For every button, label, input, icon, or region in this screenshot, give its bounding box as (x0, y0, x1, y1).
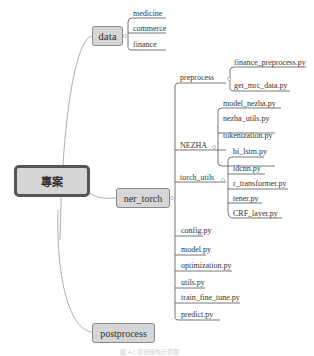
file-model-nezha[interactable]: model_nezha.py (223, 99, 276, 109)
root-label: 專案 (41, 173, 63, 189)
file-model[interactable]: model.py (181, 245, 211, 255)
node-postprocess[interactable]: postprocess (92, 323, 155, 343)
file-optimization[interactable]: optimization.py (181, 261, 231, 271)
file-utils[interactable]: utils.py (181, 278, 205, 288)
file-tokenization[interactable]: tokenization.py (223, 131, 273, 141)
file-bi-lstm[interactable]: bi_lstm.py (233, 147, 267, 157)
file-finance-preprocess[interactable]: finance_preprocess.py (234, 58, 306, 68)
file-config[interactable]: config.py (181, 226, 211, 236)
file-predict[interactable]: predict.py (181, 310, 213, 320)
leaf-medicine[interactable]: medicine (133, 9, 162, 19)
leaf-finance[interactable]: finance (133, 40, 157, 50)
file-nezha-utils[interactable]: nezha_utils.py (223, 114, 269, 124)
file-tener[interactable]: tener.py (233, 194, 259, 204)
file-get-mrc-data[interactable]: get_mrc_data.py (234, 81, 288, 91)
root-node[interactable]: 專案 (14, 165, 90, 197)
node-data[interactable]: data (92, 26, 123, 46)
node-data-label: data (98, 30, 116, 42)
node-ner-torch-label: ner_torch (124, 193, 162, 204)
node-postprocess-label: postprocess (100, 328, 147, 339)
node-ner-torch[interactable]: ner_torch (116, 188, 170, 208)
group-torch-utils[interactable]: torch_utils (180, 173, 214, 183)
leaf-commerce[interactable]: commerce (133, 24, 166, 34)
figure-caption: 图 4-1 项目结构示意图 (120, 347, 179, 356)
file-train-fine-tune[interactable]: train_fine_tune.py (181, 293, 240, 303)
group-nezha[interactable]: NEZHA (180, 141, 207, 151)
file-crf-layer[interactable]: CRF_layer.py (233, 209, 278, 219)
group-preprocess[interactable]: preprocess (180, 73, 214, 83)
file-idcnn[interactable]: idcnn.py (233, 164, 261, 174)
file-r-transformer[interactable]: r_transformer.py (233, 179, 287, 189)
